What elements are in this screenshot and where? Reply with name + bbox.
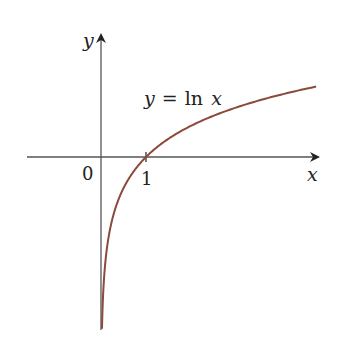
x-axis-label: x: [307, 163, 318, 185]
curve-label: y = ln x: [143, 87, 222, 109]
curve-label-eq: =: [162, 87, 178, 109]
curve-label-y: y: [143, 87, 155, 109]
y-axis-label: y: [82, 29, 94, 51]
ln-graph: y x 0 1 y = ln x: [0, 0, 339, 358]
curve-label-fn: ln: [185, 87, 203, 109]
curve-label-x: x: [211, 87, 222, 109]
tick-label-1: 1: [141, 168, 152, 189]
ln-curve: [102, 87, 316, 329]
origin-label: 0: [82, 163, 93, 184]
